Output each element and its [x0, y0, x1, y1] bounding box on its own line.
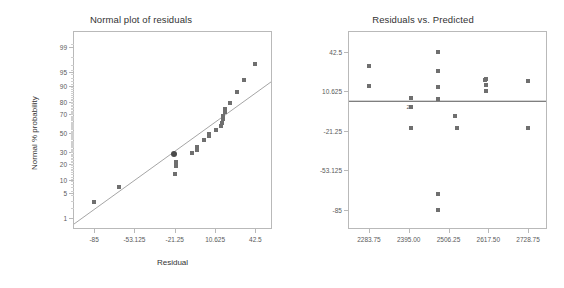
normal-plot-ytick-minor [71, 132, 74, 133]
normal-plot-ytick-minor [71, 201, 74, 202]
normal-plot-xtick-label: -21.25 [166, 236, 184, 243]
normal-plot-point [173, 172, 177, 176]
normal-plot-ytick-minor [71, 114, 74, 115]
normal-plot-ytick-minor [71, 113, 74, 114]
normal-plot-ytick-minor [71, 159, 74, 160]
residuals-point [526, 79, 530, 83]
normal-plot-ytick-label: 95 [60, 69, 67, 76]
normal-plot-panel: Normal plot of residuals 151020305070809… [0, 0, 282, 288]
normal-plot-ytick-minor [71, 181, 74, 182]
normal-plot-xtick-label: 10.625 [205, 236, 225, 243]
normal-plot-point [207, 132, 211, 136]
normal-plot-ytick-label: 30 [60, 148, 67, 155]
residuals-point [436, 85, 440, 89]
residuals-vs-predicted-panel: Residuals vs. Predicted 2 42.510.625-21.… [282, 0, 564, 288]
normal-plot-ytick-minor [71, 137, 74, 138]
residuals-ytick [344, 170, 349, 171]
residuals-vs-predicted-title: Residuals vs. Predicted [282, 14, 564, 25]
residuals-point [436, 208, 440, 212]
normal-plot-ytick-minor [71, 89, 74, 90]
normal-plot-ytick-minor [71, 142, 74, 143]
normal-plot-ytick-minor [71, 208, 74, 209]
normal-plot-ytick-minor [71, 150, 74, 151]
normal-plot-point [220, 121, 224, 125]
normal-plot-area [74, 32, 271, 228]
normal-plot-ytick-minor [71, 118, 74, 119]
normal-plot-ytick-minor [71, 152, 74, 153]
normal-plot-ytick-label: 1 [63, 215, 67, 222]
normal-plot-ytick-minor [71, 70, 74, 71]
normal-plot-ytick-label: 20 [60, 160, 67, 167]
figure-canvas: Normal plot of residuals 151020305070809… [0, 0, 564, 288]
normal-plot-ytick [69, 72, 74, 73]
normal-plot-ytick-minor [71, 147, 74, 148]
normal-plot-point [219, 124, 223, 128]
residuals-ytick [344, 210, 349, 211]
normal-plot-ytick-minor [71, 129, 74, 130]
normal-reference-line [74, 32, 271, 228]
residuals-ytick-label: 42.5 [329, 48, 342, 55]
normal-plot-point [223, 107, 227, 111]
normal-plot-xtick [255, 228, 256, 233]
normal-plot-ytick-minor [71, 102, 74, 103]
residuals-xtick-label: 2506.25 [437, 236, 461, 243]
normal-plot-ytick [69, 47, 74, 48]
residuals-vs-predicted-area: 2 [349, 32, 546, 228]
normal-plot-ytick-minor [71, 162, 74, 163]
residuals-xtick-label: 2617.50 [477, 236, 501, 243]
normal-plot-ytick-minor [71, 108, 74, 109]
normal-plot-ytick-minor [71, 161, 74, 162]
normal-plot-ytick-minor [71, 97, 74, 98]
normal-plot-ytick-minor [71, 74, 74, 75]
normal-plot-point [174, 164, 178, 168]
normal-plot-ytick-minor [71, 119, 74, 120]
normal-plot-ytick-minor [71, 155, 74, 156]
normal-plot-ytick-minor [71, 117, 74, 118]
normal-plot-ytick [69, 218, 74, 219]
normal-plot-yaxis-title: Normal % probability [30, 96, 39, 170]
residuals-vs-predicted-frame: 2 42.510.625-21.25-53.125-852283.752395.… [348, 31, 547, 229]
residuals-point [484, 89, 488, 93]
residuals-ytick [344, 52, 349, 53]
normal-plot-ytick-minor [71, 174, 74, 175]
normal-plot-ytick-minor [71, 44, 74, 45]
normal-plot-xtick-label: -53.125 [123, 236, 145, 243]
residuals-xtick [528, 228, 529, 233]
normal-plot-ytick-minor [71, 116, 74, 117]
normal-plot-ytick-minor [71, 127, 74, 128]
normal-plot-ytick-minor [71, 78, 74, 79]
normal-plot-ytick-minor [71, 131, 74, 132]
normal-plot-ytick-minor [71, 179, 74, 180]
residuals-ytick-label: -85 [333, 207, 342, 214]
normal-plot-ytick-minor [71, 91, 74, 92]
normal-plot-ytick-minor [71, 136, 74, 137]
normal-plot-ytick-minor [71, 123, 74, 124]
residuals-point [409, 126, 413, 130]
normal-plot-ytick-minor [71, 124, 74, 125]
normal-plot-ytick-minor [71, 81, 74, 82]
normal-plot-ytick-minor [71, 177, 74, 178]
normal-plot-ytick-minor [71, 126, 74, 127]
normal-plot-xtick-label: -85 [89, 236, 98, 243]
normal-plot-ytick-minor [71, 128, 74, 129]
normal-plot-xtick [94, 228, 95, 233]
residuals-xtick [409, 228, 410, 233]
normal-plot-ytick-minor [71, 165, 74, 166]
normal-plot-ytick-minor [71, 156, 74, 157]
normal-plot-ytick-minor [71, 122, 74, 123]
normal-plot-ytick-label: 90 [60, 82, 67, 89]
normal-plot-point [228, 101, 232, 105]
residuals-xtick [449, 228, 450, 233]
normal-plot-ytick-minor [71, 167, 74, 168]
normal-plot-point [195, 145, 199, 149]
normal-plot-ytick-minor [71, 111, 74, 112]
residuals-xtick-label: 2395.00 [397, 236, 421, 243]
normal-plot-ytick-minor [71, 145, 74, 146]
normal-plot-point [235, 90, 239, 94]
normal-plot-ytick-minor [71, 105, 74, 106]
normal-plot-point [253, 62, 257, 66]
normal-plot-ytick-minor [71, 184, 74, 185]
normal-plot-ytick-minor [71, 93, 74, 94]
normal-plot-ytick-minor [71, 172, 74, 173]
residuals-point [526, 126, 530, 130]
